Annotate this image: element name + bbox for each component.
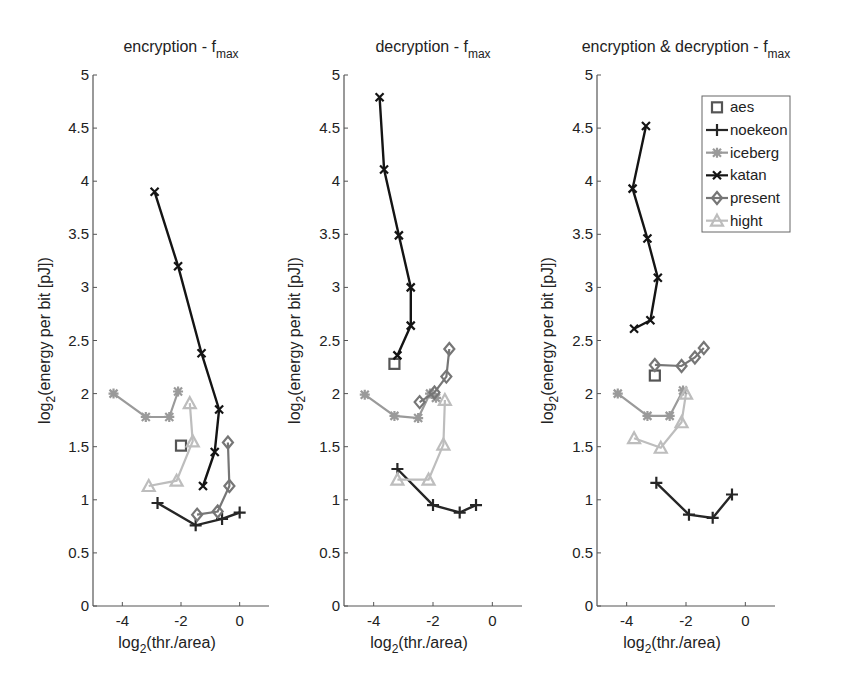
y-tick-label: 2.5: [572, 332, 593, 349]
y-tick-label: 3: [585, 278, 593, 295]
legend-label: noekeon: [730, 121, 788, 138]
x-tick-label: -2: [426, 612, 439, 629]
katan-line: [633, 126, 658, 329]
series-iceberg: [109, 386, 184, 421]
legend-entry-present: present: [706, 189, 781, 206]
y-tick-label: 1: [585, 491, 593, 508]
subplot-2: 00.511.522.533.544.55-4-20decryption - f…: [286, 38, 522, 656]
katan-marker: [630, 325, 638, 333]
y-tick-label: 4: [332, 172, 340, 189]
noekeon-marker: [152, 497, 164, 509]
y-tick-label: 0.5: [319, 544, 340, 561]
series-aes: [389, 359, 399, 369]
iceberg-marker: [109, 389, 119, 399]
aes-marker: [389, 359, 399, 369]
y-tick-label: 3.5: [572, 225, 593, 242]
iceberg-marker: [613, 389, 623, 399]
x-tick-label: -4: [367, 612, 380, 629]
subplot-3: 00.511.522.533.544.55-4-20encryption & d…: [539, 38, 790, 656]
noekeon-marker: [470, 499, 482, 511]
legend: aesnoekeonicebergkatanpresenthight: [702, 96, 790, 232]
y-tick-label: 2: [81, 385, 89, 402]
x-tick-label: 0: [741, 612, 749, 629]
y-tick-label: 2: [332, 385, 340, 402]
y-tick-label: 3: [332, 278, 340, 295]
legend-label: katan: [730, 166, 767, 183]
subplot-title: decryption - fmax: [375, 38, 490, 61]
y-tick-label: 4.5: [319, 119, 340, 136]
noekeon-marker: [454, 507, 466, 519]
series-iceberg: [613, 385, 688, 420]
legend-label: present: [730, 189, 781, 206]
y-tick-label: 1: [332, 491, 340, 508]
y-tick-label: 2: [585, 385, 593, 402]
y-tick-label: 5: [332, 66, 340, 83]
subplot-title: encryption & decryption - fmax: [582, 38, 791, 61]
series-hight: [628, 388, 692, 453]
series-noekeon: [391, 463, 482, 519]
legend-label: iceberg: [730, 144, 779, 161]
iceberg-marker: [164, 412, 174, 422]
y-tick-label: 0: [585, 597, 593, 614]
legend-label: hight: [730, 212, 763, 229]
series-iceberg: [360, 389, 441, 423]
iceberg-marker: [665, 411, 675, 421]
y-tick-label: 4.5: [572, 119, 593, 136]
chart-canvas: 00.511.522.533.544.55-4-20encryption - f…: [0, 0, 845, 691]
x-axis-label: log2(thr./area): [118, 634, 215, 656]
series-katan: [629, 122, 662, 333]
y-tick-label: 3.5: [319, 225, 340, 242]
noekeon-marker: [190, 519, 202, 531]
y-tick-label: 1: [81, 491, 89, 508]
iceberg-marker: [141, 412, 151, 422]
series-noekeon: [650, 477, 738, 524]
iceberg-marker: [642, 411, 652, 421]
iceberg-marker: [360, 390, 370, 400]
iceberg-marker: [413, 413, 423, 423]
x-tick-label: -2: [679, 612, 692, 629]
hight-marker: [628, 432, 640, 443]
iceberg-legend-marker-icon: [712, 148, 722, 158]
y-tick-label: 0: [81, 597, 89, 614]
y-tick-label: 3.5: [68, 225, 89, 242]
y-tick-label: 5: [585, 66, 593, 83]
noekeon-marker: [234, 507, 246, 519]
x-axis-label: log2(thr./area): [370, 634, 467, 656]
y-axis-label: log2(energy per bit [pJ]): [286, 257, 308, 424]
y-tick-label: 1.5: [319, 438, 340, 455]
y-tick-label: 3: [81, 278, 89, 295]
y-tick-label: 4: [585, 172, 593, 189]
y-tick-label: 4: [81, 172, 89, 189]
aes-marker: [176, 441, 186, 451]
series-aes: [176, 441, 186, 451]
iceberg-marker: [389, 411, 399, 421]
iceberg-marker: [173, 386, 183, 396]
x-tick-label: -4: [116, 612, 129, 629]
y-tick-label: 1.5: [572, 438, 593, 455]
subplot-1: 00.511.522.533.544.55-4-20encryption - f…: [36, 38, 269, 656]
figure: 00.511.522.533.544.55-4-20encryption - f…: [0, 0, 845, 691]
y-tick-label: 2.5: [319, 332, 340, 349]
y-axis-label: log2(energy per bit [pJ]): [36, 257, 58, 424]
legend-label: aes: [730, 98, 754, 115]
noekeon-line: [656, 483, 732, 518]
subplot-title: encryption - fmax: [123, 38, 238, 61]
katan-line: [380, 97, 411, 355]
y-tick-label: 1.5: [68, 438, 89, 455]
y-tick-label: 0: [332, 597, 340, 614]
y-tick-label: 4.5: [68, 119, 89, 136]
series-katan: [376, 93, 415, 359]
series-present: [650, 342, 709, 372]
x-tick-label: -4: [620, 612, 633, 629]
y-tick-label: 0.5: [68, 544, 89, 561]
y-tick-label: 5: [81, 66, 89, 83]
y-axis-label: log2(energy per bit [pJ]): [539, 257, 561, 424]
x-tick-label: 0: [488, 612, 496, 629]
y-tick-label: 2.5: [68, 332, 89, 349]
x-tick-label: -2: [174, 612, 187, 629]
y-tick-label: 0.5: [572, 544, 593, 561]
x-axis-label: log2(thr./area): [623, 634, 720, 656]
x-tick-label: 0: [235, 612, 243, 629]
